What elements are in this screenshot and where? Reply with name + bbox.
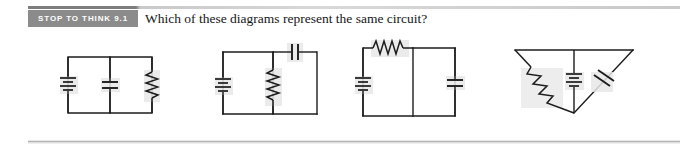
bottom-divider-rule: [28, 140, 680, 144]
circuit-diagram-a: [60, 34, 160, 126]
battery-symbol-c: [355, 48, 373, 116]
capacitor-symbol-b: [273, 43, 317, 62]
circuit-option-c: [355, 34, 470, 126]
circuit-diagram-d: [505, 34, 645, 126]
circuit-diagram-c: [355, 34, 470, 126]
battery-symbol-a: [60, 57, 78, 113]
stop-to-think-badge: STOP TO THINK 9.1: [28, 10, 138, 27]
battery-symbol-d: [565, 50, 584, 113]
circuit-diagram-b: [215, 34, 325, 126]
circuit-option-b: [215, 34, 325, 126]
option-label-a: A.: [60, 152, 160, 154]
resistor-symbol-b: [265, 52, 282, 114]
option-label-d: D.: [505, 152, 645, 154]
figure-header: STOP TO THINK 9.1 Which of these diagram…: [28, 10, 680, 30]
circuit-options-row: A.: [0, 34, 688, 126]
resistor-symbol-a: [144, 57, 160, 113]
option-label-c: C.: [355, 152, 470, 154]
circuit-option-a: [60, 34, 160, 126]
resistor-symbol-c: [363, 40, 413, 57]
battery-symbol-b: [215, 52, 233, 114]
capacitor-symbol-d: [591, 70, 614, 92]
question-text: Which of these diagrams represent the sa…: [145, 10, 427, 27]
top-divider-rule: [28, 6, 680, 9]
option-label-b: B.: [215, 152, 325, 154]
circuit-option-d: [505, 34, 645, 126]
capacitor-symbol-c: [446, 48, 465, 116]
capacitor-symbol-a: [101, 57, 120, 113]
stop-to-think-figure: STOP TO THINK 9.1 Which of these diagram…: [0, 0, 688, 154]
